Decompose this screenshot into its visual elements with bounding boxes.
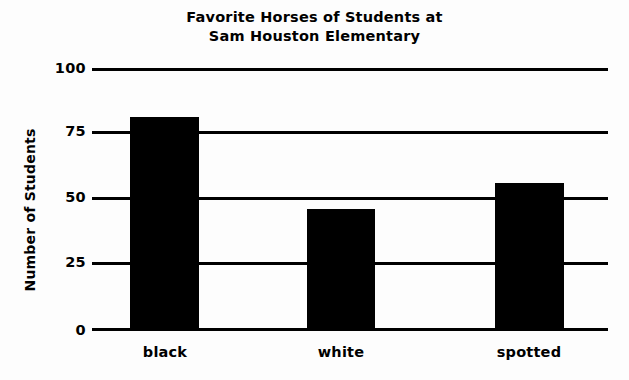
bar-chart: Favorite Horses of Students at Sam Houst… [0, 0, 629, 380]
y-tick-label-25: 25 [0, 255, 86, 270]
x-label-white: white [318, 344, 364, 360]
x-label-spotted: spotted [497, 344, 561, 360]
y-axis-tick-labels: 100 75 50 25 0 [0, 0, 86, 380]
y-tick-label-0: 0 [0, 323, 86, 338]
y-tick-label-50: 50 [0, 190, 86, 205]
y-tick-label-75: 75 [0, 124, 86, 139]
x-label-black: black [143, 344, 187, 360]
bar-black [130, 117, 199, 330]
chart-title-line-1: Favorite Horses of Students at [0, 8, 629, 27]
y-tick-label-100: 100 [0, 61, 86, 76]
plot-area [92, 68, 608, 330]
bar-white [307, 209, 375, 330]
gridline-100 [92, 68, 608, 71]
bar-spotted [495, 183, 564, 330]
chart-title-line-2: Sam Houston Elementary [0, 27, 629, 46]
x-axis-category-labels: black white spotted [0, 344, 629, 370]
chart-title: Favorite Horses of Students at Sam Houst… [0, 8, 629, 46]
